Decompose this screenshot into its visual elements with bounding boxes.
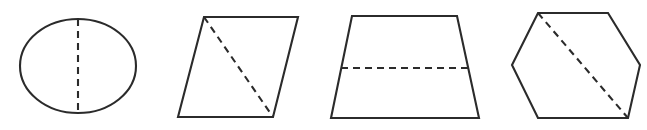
shape-circle <box>20 19 136 113</box>
shapes-figure <box>0 0 647 130</box>
shape-hexagon <box>512 13 640 118</box>
shape-parallelogram <box>178 17 298 117</box>
shape-trapezoid <box>331 16 479 118</box>
figure-canvas <box>0 0 647 130</box>
hexagon-outline <box>512 13 640 118</box>
